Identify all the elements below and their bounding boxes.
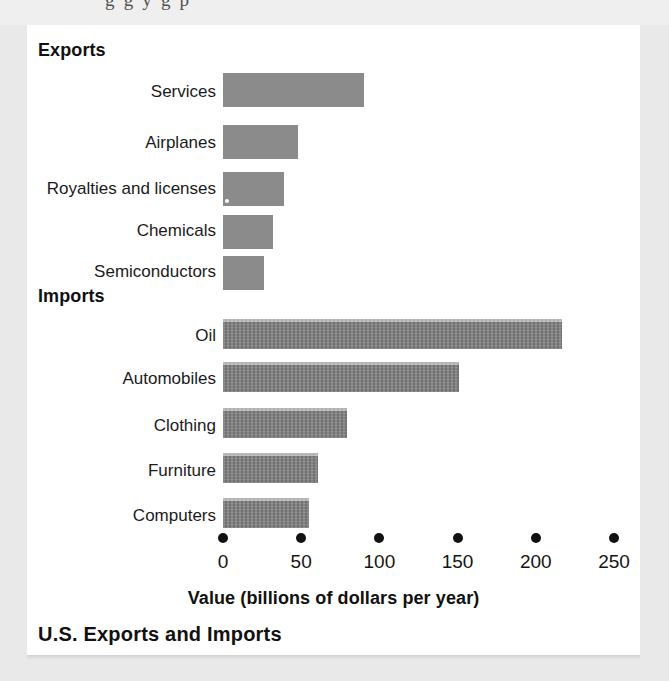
chart-page: g g y g p Exports Imports Services Airpl…	[0, 0, 669, 681]
chart-title: U.S. Exports and Imports	[38, 623, 282, 646]
x-tick-label: 50	[271, 551, 331, 573]
chart-card: Exports Imports Services Airplanes Royal…	[27, 25, 640, 655]
x-tick-dot	[609, 533, 619, 543]
x-tick-dot	[374, 533, 384, 543]
x-tick-dot	[453, 533, 463, 543]
x-axis-title: Value (billions of dollars per year)	[27, 588, 640, 609]
x-tick-label: 200	[506, 551, 566, 573]
x-tick-dot	[218, 533, 228, 543]
cut-off-text-above: g g y g p	[105, 0, 575, 11]
x-tick-label: 250	[584, 551, 644, 573]
x-axis: 0 50 100 150 200 250	[27, 25, 640, 655]
x-tick-label: 150	[428, 551, 488, 573]
x-tick-dot	[296, 533, 306, 543]
x-tick-dot	[531, 533, 541, 543]
x-tick-label: 100	[349, 551, 409, 573]
card-shadow	[27, 655, 640, 660]
x-tick-label: 0	[193, 551, 253, 573]
